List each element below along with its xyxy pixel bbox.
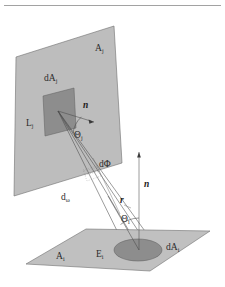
patch-dai [114,239,162,261]
label-flux-dphi: dΦ [99,159,111,169]
label-patch-dai: dAi [166,242,180,253]
label-theta-i: Θi [121,214,130,225]
label-distance-r: r [120,195,124,205]
figure-canvas: Aj dAj Lj n Θj dΦ n r dω Θi [0,0,225,287]
label-normal-ni: n [144,179,149,189]
label-solid-angle-domega: dω [61,192,70,203]
r-tick-mark [124,205,131,208]
label-normal-nj: n [83,100,88,110]
radiometry-figure: Aj dAj Lj n Θj dΦ n r dω Θi [0,0,225,287]
label-patch-daj: dAj [44,73,58,84]
normal-ni-arrowhead [137,152,141,157]
